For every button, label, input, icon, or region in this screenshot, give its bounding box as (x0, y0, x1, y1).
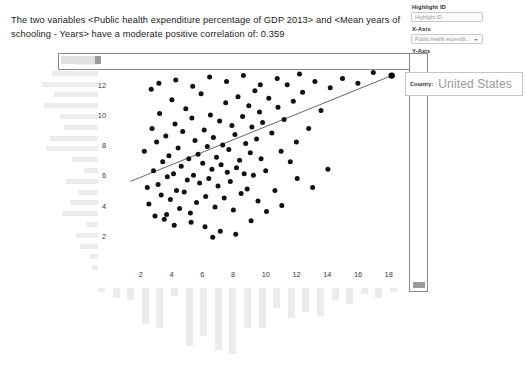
tooltip-key: Country: (410, 81, 433, 87)
x-tick-label: 10 (262, 270, 270, 279)
y-tick-label: 8 (94, 141, 106, 150)
control-panel: Highlight ID Highlight ID ⚲ X-Axis Publi… (411, 4, 523, 59)
x-tick-label: 14 (323, 270, 331, 279)
x-tick-label: 16 (354, 270, 362, 279)
y-tick-label: 12 (94, 81, 106, 90)
y-axis-label: Y-Axis (412, 48, 523, 54)
x-tick-label: 18 (385, 270, 393, 279)
right-selection-handle[interactable] (413, 282, 425, 288)
x-axis-select[interactable]: Public health expendit... (411, 34, 483, 44)
y-tick-label: 4 (94, 202, 106, 211)
x-tick-label: 6 (200, 270, 204, 279)
chevron-down-icon[interactable] (474, 39, 478, 41)
highlight-id-group: Highlight ID Highlight ID ⚲ (411, 4, 523, 22)
y-axis-group: Y-Axis (411, 48, 523, 54)
highlight-id-input[interactable]: Highlight ID (411, 12, 483, 22)
country-tooltip: Country: United States (405, 72, 523, 96)
x-tick-label: 8 (231, 270, 235, 279)
x-tick-label: 2 (139, 270, 143, 279)
correlation-scatter-app: The two variables <Public health expendi… (0, 0, 526, 374)
x-tick-label: 12 (292, 270, 300, 279)
y-tick-label: 6 (94, 171, 106, 180)
top-marginal-selection[interactable] (58, 53, 410, 70)
x-axis-group: X-Axis Public health expendit... (411, 26, 523, 44)
x-axis-label: X-Axis (412, 26, 523, 32)
top-selection-handle[interactable] (95, 56, 101, 64)
y-tick-label: 10 (94, 111, 106, 120)
x-axis-select-value: Public health expendit... (415, 36, 470, 42)
y-tick-label: 2 (94, 232, 106, 241)
tooltip-value: United States (438, 77, 512, 91)
highlight-id-label: Highlight ID (412, 4, 523, 10)
x-tick-label: 4 (170, 270, 174, 279)
